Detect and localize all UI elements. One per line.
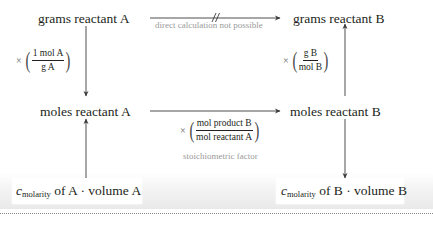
factor-stoichiometric: × ( mol product B mol reactant A ) xyxy=(180,118,261,143)
numerator: mol product B xyxy=(196,118,253,131)
node-grams-reactant-b: grams reactant B xyxy=(293,12,384,26)
node-molarity-volume-b: cmolarity of B · volume B xyxy=(281,184,407,199)
times-icon: × xyxy=(180,125,186,136)
node-moles-reactant-b: moles reactant B xyxy=(290,105,381,119)
fraction: 1 mol A g A xyxy=(32,48,65,73)
times-icon: × xyxy=(16,55,22,66)
right-paren-icon: ) xyxy=(66,48,71,72)
node-grams-reactant-a: grams reactant A xyxy=(38,12,129,26)
left-paren-icon: ( xyxy=(292,48,297,72)
fraction: g B mol B xyxy=(299,48,323,73)
factor-moles-to-grams-b: × ( g B mol B ) xyxy=(283,48,330,73)
denominator: g A xyxy=(41,61,54,73)
molarity-b-text: of B · volume B xyxy=(316,183,407,198)
times-icon: × xyxy=(283,55,289,66)
factor-grams-to-moles-a: × ( 1 mol A g A ) xyxy=(16,48,72,73)
right-paren-icon: ) xyxy=(254,118,259,142)
left-paren-icon: ( xyxy=(189,118,194,142)
numerator: g B xyxy=(303,48,318,61)
fraction: mol product B mol reactant A xyxy=(196,118,253,143)
numerator: 1 mol A xyxy=(32,48,65,61)
node-moles-reactant-a: moles reactant A xyxy=(40,105,131,119)
molarity-symbol: cmolarity xyxy=(16,183,51,198)
left-paren-icon: ( xyxy=(25,48,30,72)
direct-calculation-note: direct calculation not possible xyxy=(155,21,263,30)
molarity-symbol: cmolarity xyxy=(281,183,316,198)
denominator: mol B xyxy=(299,61,323,73)
right-paren-icon: ) xyxy=(324,48,329,72)
node-molarity-volume-a: cmolarity of A · volume A xyxy=(16,184,141,199)
stoichiometric-factor-note: stoichiometric factor xyxy=(183,152,258,161)
molarity-a-text: of A · volume A xyxy=(51,183,141,198)
denominator: mol reactant A xyxy=(196,131,252,143)
